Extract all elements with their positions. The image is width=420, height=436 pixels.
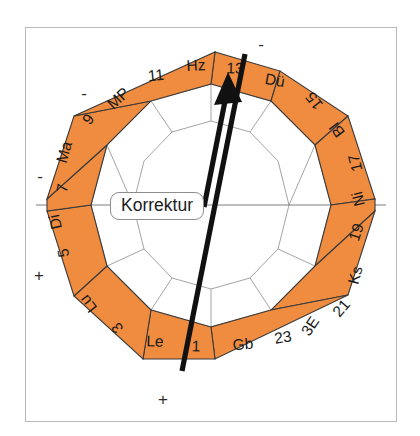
segment-1-code: Le [146,332,164,350]
segment-5-number: 5 [54,247,72,258]
segment-19-code: Ks [344,264,365,286]
polarity-mark-lower-left: + [34,266,44,285]
polarity-mark-upper-left: - [81,84,87,103]
polarity-mark-bottom: + [158,390,168,409]
segment-13-code: Dü [264,70,286,90]
segment-1-number: 1 [191,337,200,354]
polarity-mark-left: - [37,167,43,186]
segment-11-number: 11 [147,66,165,85]
dial-diagram-canvas: 13 Dü 11 Hz 9 MP 7 Ma 5 Di 3 Lu Le 1 Gb … [0,0,420,436]
polarity-mark-top: - [258,35,264,54]
segment-11-code: Hz [186,56,206,74]
segment-23-code: Gb [232,335,254,353]
segment-23-number: 23 [273,327,293,346]
dial-svg: 13 Dü 11 Hz 9 MP 7 Ma 5 Di 3 Lu Le 1 Gb … [0,0,420,436]
center-korrektur-label[interactable]: Korrektur [110,192,204,220]
